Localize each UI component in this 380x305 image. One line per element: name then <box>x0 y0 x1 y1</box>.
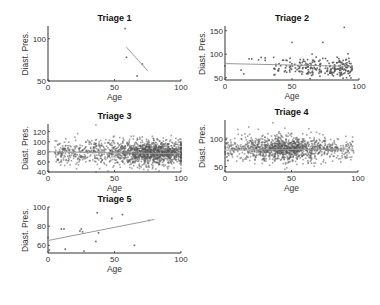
y-tick-label: 100 <box>33 138 47 147</box>
x-tick-label: 100 <box>351 174 365 183</box>
axes-lines <box>48 26 181 81</box>
y-tick-label: 80 <box>37 222 46 231</box>
y-tick-label: 100 <box>33 35 47 44</box>
scatter-points <box>54 124 182 172</box>
regression-line <box>225 64 352 67</box>
y-tick-label: 100 <box>210 50 224 59</box>
y-tick-label: 50 <box>214 74 223 83</box>
y-tick-label: 60 <box>37 158 46 167</box>
scatter-points <box>47 212 150 252</box>
axes-lines <box>48 207 181 253</box>
subplot-title: Triage 4 <box>274 107 308 117</box>
x-tick-label: 50 <box>110 83 119 92</box>
x-tick-label: 0 <box>223 174 228 183</box>
axes-lines <box>225 26 359 80</box>
x-tick-label: 50 <box>110 174 119 183</box>
subplot-1: Triage 105010050100AgeDiast. Pres. <box>20 13 188 102</box>
x-axis-label: Age <box>107 264 122 274</box>
x-axis-label: Age <box>284 91 299 101</box>
subplot-3: Triage 3050100406080100120AgeDiast. Pres… <box>20 111 188 193</box>
y-axis-label: Diast. Pres. <box>197 124 207 168</box>
x-tick-label: 100 <box>174 255 188 264</box>
x-tick-label: 100 <box>174 174 188 183</box>
y-axis-label: Diast. Pres. <box>20 208 30 252</box>
y-tick-label: 150 <box>210 27 224 36</box>
regression-line <box>48 219 154 240</box>
x-tick-label: 0 <box>46 255 51 264</box>
y-tick-label: 120 <box>33 128 47 137</box>
x-tick-label: 0 <box>46 174 51 183</box>
x-tick-label: 100 <box>352 82 366 91</box>
y-tick-label: 40 <box>37 168 46 177</box>
figure-canvas: Triage 105010050100AgeDiast. Pres.Triage… <box>0 0 380 305</box>
y-tick-label: 100 <box>210 135 224 144</box>
y-axis-label: Diast. Pres. <box>197 31 207 75</box>
scatter-points <box>224 122 354 170</box>
subplot-5: Triage 50501006080100AgeDiast. Pres. <box>20 194 188 274</box>
y-axis-label: Diast. Pres. <box>20 126 30 170</box>
x-tick-label: 50 <box>110 255 119 264</box>
x-tick-label: 50 <box>287 174 296 183</box>
x-tick-label: 0 <box>223 82 228 91</box>
subplot-title: Triage 2 <box>275 13 309 23</box>
y-tick-label: 50 <box>37 77 46 86</box>
scatter-points <box>224 27 353 80</box>
x-axis-label: Age <box>284 183 299 193</box>
x-axis-label: Age <box>107 183 122 193</box>
y-tick-label: 60 <box>37 241 46 250</box>
y-tick-label: 50 <box>214 163 223 172</box>
regression-line <box>126 47 147 71</box>
scatter-points <box>124 28 143 77</box>
subplot-4: Triage 405010050100AgeDiast. Pres. <box>197 107 365 193</box>
x-tick-label: 100 <box>174 83 188 92</box>
x-axis-label: Age <box>107 92 122 102</box>
subplot-title: Triage 1 <box>97 13 131 23</box>
subplot-title: Triage 5 <box>97 194 131 204</box>
y-tick-label: 80 <box>37 148 46 157</box>
x-tick-label: 50 <box>288 82 297 91</box>
y-tick-label: 100 <box>33 203 47 212</box>
subplot-title: Triage 3 <box>97 111 131 121</box>
y-axis-label: Diast. Pres. <box>20 32 30 76</box>
subplot-2: Triage 205010050100150AgeDiast. Pres. <box>197 13 366 101</box>
x-tick-label: 0 <box>46 83 51 92</box>
